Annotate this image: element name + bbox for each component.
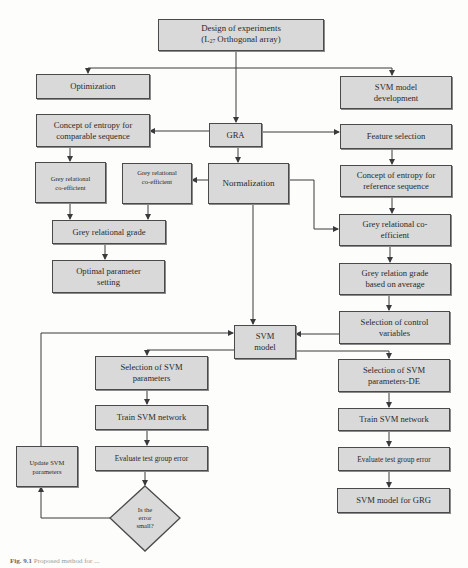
node-selection-svm-parameters-de: Selection of SVM parameters-DE [338, 359, 450, 392]
node-gra: GRA [209, 123, 262, 147]
node-train-svm-network-right: Train SVM network [338, 408, 450, 431]
design-subtitle: (L27 Orthogonal array) [201, 34, 281, 47]
node-entropy-comparable: Concept of entropy for comparable sequen… [36, 114, 150, 147]
node-evaluate-error-right: Evaluate test group error [338, 447, 450, 471]
flowchart-canvas: Design of experiments(L27 Orthogonal arr… [0, 0, 468, 568]
node-grc-middle: Grey relational co-efficient [122, 163, 192, 204]
edge-svmmodel-selparams [147, 350, 234, 355]
design-title: Design of experiments [201, 23, 281, 34]
node-selection-svm-parameters: Selection of SVM parameters [95, 356, 208, 390]
node-normalization: Normalization [208, 163, 289, 204]
node-train-svm-network-mid: Train SVM network [95, 405, 208, 430]
node-optimal-parameter-setting: Optimal parameter setting [52, 260, 165, 293]
node-grc-right: Grey relational co- efficient [339, 214, 451, 246]
node-grey-relation-grade-average: Grey relation grade based on average [339, 263, 451, 295]
caption-text: Proposed method for ... [34, 557, 100, 565]
edge-design-svmdev [236, 68, 392, 75]
node-design-of-experiments: Design of experiments(L27 Orthogonal arr… [158, 19, 324, 51]
node-evaluate-error-mid: Evaluate test group error [95, 446, 208, 471]
node-svm-model-development: SVM model development [340, 76, 452, 109]
node-grey-relational-grade: Grey relational grade [52, 220, 166, 244]
edge-design-optimization [88, 68, 236, 73]
node-feature-selection: Feature selection [340, 124, 452, 149]
caption-label: Fig. 9.1 [10, 557, 32, 565]
edge-norm-grcright [288, 180, 338, 229]
node-selection-control-variables: Selection of control variables [339, 311, 450, 344]
node-update-svm-parameters: Update SVM parameters [16, 446, 78, 487]
node-svm-model-for-grg: SVM model for GRG [337, 488, 450, 513]
node-entropy-reference: Concept of entropy for reference sequenc… [340, 165, 452, 197]
node-optimization: Optimization [36, 74, 150, 99]
figure-caption: Fig. 9.1 Proposed method for ... [10, 557, 99, 565]
edge-svmmodel-selde [295, 351, 389, 358]
node-svm-model: SVM model [234, 325, 296, 359]
node-grc-left: Grey relational co-efficient [35, 162, 106, 203]
edge-decision-update [41, 487, 110, 518]
decision-label: Is the error small? [120, 506, 170, 530]
